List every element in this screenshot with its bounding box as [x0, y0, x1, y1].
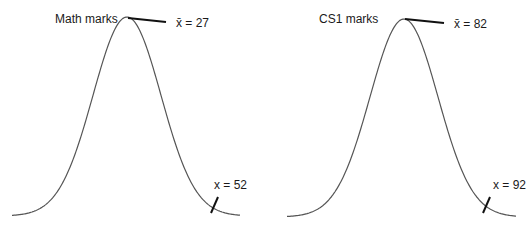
math-marks-panel: Math marks x̄ = 27 x = 52	[0, 0, 266, 228]
chart-title: CS1 marks	[319, 12, 378, 26]
mean-label: x̄ = 27	[176, 16, 209, 30]
math-bell-curve	[0, 0, 266, 228]
chart-title: Math marks	[55, 12, 118, 26]
value-label: x = 52	[214, 178, 247, 192]
mean-label: x̄ = 82	[454, 17, 487, 31]
value-label: x = 92	[493, 178, 526, 192]
cs1-bell-curve	[266, 0, 532, 228]
cs1-marks-panel: CS1 marks x̄ = 82 x = 92	[266, 0, 532, 228]
